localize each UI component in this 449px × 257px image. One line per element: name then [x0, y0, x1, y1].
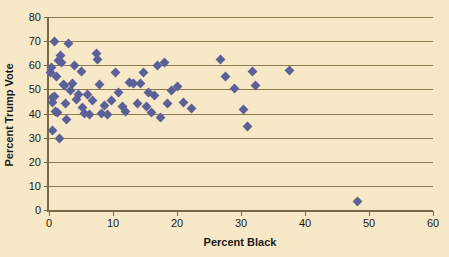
data-point: [132, 99, 142, 109]
x-axis-tick-label: 0: [46, 217, 52, 229]
x-axis-tick-label: 20: [171, 217, 183, 229]
x-axis-tick-label: 10: [107, 217, 119, 229]
y-axis-tick: [44, 89, 49, 90]
y-axis-tick-label: 80: [29, 11, 41, 23]
y-axis-title-text: Percent Trump Vote: [3, 63, 15, 166]
chart-screenshot: Percent Trump Vote 010203040506070800102…: [0, 0, 449, 257]
data-point: [136, 78, 146, 88]
gridline: [49, 138, 433, 139]
x-axis-tick: [369, 211, 370, 216]
data-point: [62, 115, 72, 125]
y-axis-tick-label: 10: [29, 180, 41, 192]
data-point: [162, 99, 172, 109]
data-point: [103, 110, 113, 120]
gridline: [49, 17, 433, 18]
gridline: [49, 162, 433, 163]
x-axis-tick: [305, 211, 306, 216]
y-axis-title: Percent Trump Vote: [2, 17, 16, 212]
data-point: [54, 134, 64, 144]
y-axis-tick-label: 30: [29, 132, 41, 144]
y-axis-tick: [44, 17, 49, 18]
y-axis-tick-label: 20: [29, 156, 41, 168]
data-point: [242, 122, 252, 132]
y-axis-tick-label: 50: [29, 83, 41, 95]
data-point: [85, 110, 95, 120]
data-point: [230, 83, 240, 93]
data-point: [220, 71, 230, 81]
x-axis-tick-label: 40: [299, 217, 311, 229]
x-axis-tick: [113, 211, 114, 216]
x-axis-tick-label: 60: [427, 217, 439, 229]
data-point: [48, 125, 58, 135]
data-point: [150, 90, 160, 100]
plot-area: 010203040506070800102030405060: [47, 17, 433, 212]
data-point: [178, 98, 188, 108]
x-axis-tick-label: 50: [363, 217, 375, 229]
y-axis-tick: [44, 162, 49, 163]
gridline: [49, 186, 433, 187]
data-point: [139, 68, 149, 78]
data-point: [49, 36, 59, 46]
y-axis-tick: [44, 186, 49, 187]
y-axis-tick-label: 70: [29, 35, 41, 47]
data-point: [216, 54, 226, 64]
data-point: [64, 39, 74, 49]
y-axis-tick-label: 0: [35, 204, 41, 216]
y-axis-tick: [44, 114, 49, 115]
x-axis-tick: [49, 211, 50, 216]
data-point: [57, 58, 67, 68]
x-axis-title: Percent Black: [47, 236, 433, 248]
gridline: [49, 65, 433, 66]
x-axis-tick: [177, 211, 178, 216]
gridline: [49, 41, 433, 42]
data-point: [95, 80, 105, 90]
data-point: [111, 68, 121, 78]
data-point: [248, 66, 258, 76]
x-axis-tick: [241, 211, 242, 216]
x-axis-tick-label: 30: [235, 217, 247, 229]
y-axis-tick: [44, 138, 49, 139]
y-axis-tick-label: 60: [29, 59, 41, 71]
y-axis-tick: [44, 41, 49, 42]
data-point: [187, 104, 197, 114]
data-point: [353, 197, 363, 207]
gridline: [49, 89, 433, 90]
data-point: [284, 65, 294, 75]
y-axis-tick-label: 40: [29, 108, 41, 120]
x-axis-tick: [433, 211, 434, 216]
data-point: [76, 66, 86, 76]
data-point: [61, 99, 71, 109]
